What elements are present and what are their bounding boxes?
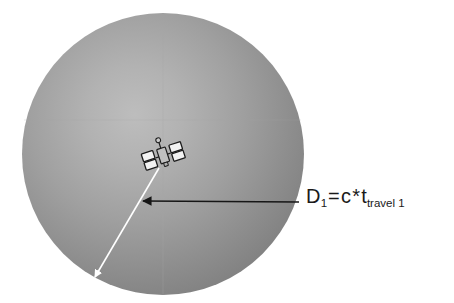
satellite-instrument bbox=[164, 162, 169, 167]
formula-variable: D bbox=[306, 185, 321, 207]
formula-operator: * bbox=[351, 185, 361, 207]
distance-annotation-arrow bbox=[143, 201, 299, 202]
diagram-svg bbox=[0, 0, 454, 303]
formula-equals: = bbox=[327, 185, 341, 207]
diagram-canvas: D1=c*ttravel 1 bbox=[0, 0, 454, 303]
formula-time-subscript: travel 1 bbox=[367, 197, 405, 209]
formula-speed-symbol: c bbox=[341, 185, 351, 207]
distance-formula: D1=c*ttravel 1 bbox=[306, 186, 405, 209]
